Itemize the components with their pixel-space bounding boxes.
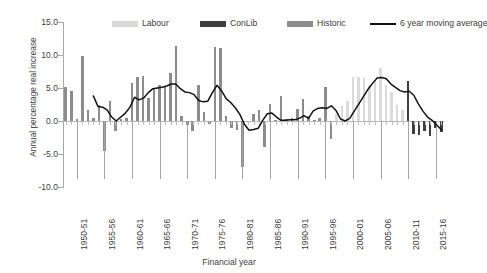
x-tick-label: 1970-71 (191, 219, 200, 250)
x-tick-label: 1985-86 (274, 219, 283, 250)
legend-color-swatch (200, 21, 226, 27)
moving-average-line (63, 22, 444, 187)
x-tick-label: 1975-76 (218, 219, 227, 250)
x-tick-label: 1995-96 (329, 219, 338, 250)
x-tick-label: 1955-56 (108, 219, 117, 250)
y-tick-label: 15.0 (24, 18, 58, 26)
y-tick-mark (58, 121, 63, 122)
x-tick-label: 2000-01 (356, 219, 365, 250)
legend-color-swatch (112, 21, 138, 27)
y-tick-label: -10.0 (24, 183, 58, 191)
legend-label: ConLib (230, 18, 257, 28)
y-tick-mark (58, 154, 63, 155)
y-tick-label: 10.0 (24, 51, 58, 59)
x-tick-label: 2015-16 (439, 219, 448, 250)
x-tick-label: 1980-81 (246, 219, 255, 250)
legend-color-swatch (287, 21, 313, 27)
legend-label: 6 year moving average (400, 18, 487, 28)
legend-label: Labour (142, 18, 169, 28)
x-tick-label: 2005-06 (384, 219, 393, 250)
y-tick-label: 0.0 (24, 117, 58, 125)
plot-area (63, 22, 444, 187)
y-tick-mark (58, 22, 63, 23)
x-axis-title: Financial year (0, 257, 458, 267)
y-tick-label: 5.0 (24, 84, 58, 92)
y-axis-tick-labels: 15.010.05.00.0-5.0-10.0 (24, 0, 58, 273)
y-tick-mark (58, 88, 63, 89)
x-tick-label: 1960-61 (136, 219, 145, 250)
y-tick-mark (58, 55, 63, 56)
y-tick-mark (58, 187, 63, 188)
x-tick-label: 1965-66 (163, 219, 172, 250)
x-tick-label: 1990-91 (301, 219, 310, 250)
x-tick-label: 2010-11 (412, 219, 421, 250)
legend-line-swatch (370, 23, 396, 25)
x-tick-label: 1950-51 (80, 219, 89, 250)
y-tick-label: -5.0 (24, 150, 58, 158)
legend-label: Historic (317, 18, 346, 28)
